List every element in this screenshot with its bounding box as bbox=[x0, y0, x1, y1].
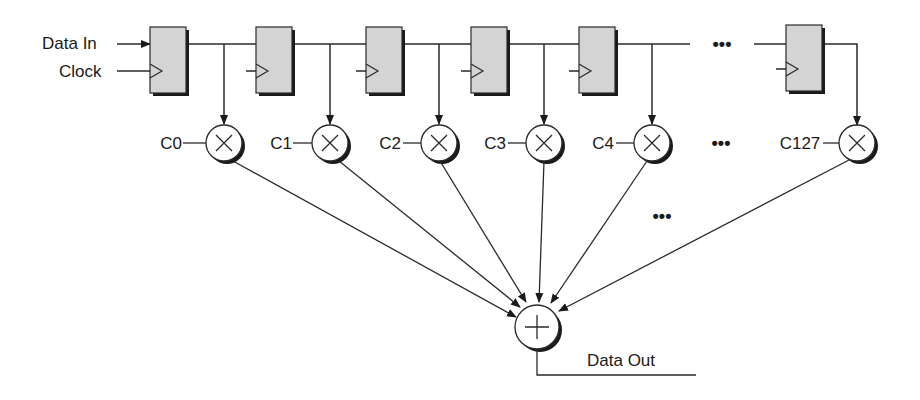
last-tap-wire bbox=[821, 44, 857, 125]
coef-label: C2 bbox=[379, 134, 401, 153]
multiplier-ellipsis: ••• bbox=[712, 133, 731, 153]
product-wire bbox=[551, 161, 647, 303]
product-wire bbox=[233, 161, 516, 317]
multiplier-c2: C2 bbox=[379, 125, 460, 164]
register-127 bbox=[776, 25, 825, 94]
register-2 bbox=[356, 27, 405, 96]
register-3 bbox=[461, 27, 510, 96]
coef-label: C4 bbox=[592, 134, 614, 153]
chain-ellipsis: ••• bbox=[713, 34, 732, 54]
multiplier-c1: C1 bbox=[270, 125, 351, 164]
product-wire bbox=[440, 161, 526, 302]
register-0 bbox=[150, 27, 189, 96]
register-4 bbox=[569, 27, 618, 96]
adder bbox=[515, 305, 562, 352]
multiplier-c0: C0 bbox=[160, 125, 245, 164]
coef-label: C1 bbox=[270, 134, 292, 153]
multiplier-c127: C127 bbox=[780, 125, 878, 164]
register-1 bbox=[246, 27, 295, 96]
coef-label: C3 bbox=[484, 134, 506, 153]
fir-filter-diagram: Data In Clock ••• bbox=[0, 0, 920, 400]
coef-label: C0 bbox=[160, 134, 182, 153]
data-in-label: Data In bbox=[42, 34, 97, 53]
product-wire bbox=[539, 161, 544, 302]
multiplier-c3: C3 bbox=[484, 125, 565, 164]
coef-label: C127 bbox=[780, 134, 821, 153]
sum-ellipsis: ••• bbox=[653, 206, 672, 226]
clock-label: Clock bbox=[59, 62, 102, 81]
multiplier-c4: C4 bbox=[592, 125, 673, 164]
product-wire bbox=[559, 160, 849, 311]
data-out-label: Data Out bbox=[587, 351, 655, 370]
